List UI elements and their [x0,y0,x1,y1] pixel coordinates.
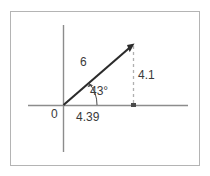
origin-label: 0 [51,107,58,121]
y-component-label: 4.1 [138,68,155,82]
magnitude-label: 6 [80,55,87,69]
vector-diagram-figure: 0 6 43° 4.39 4.1 [0,0,210,176]
x-component-tick-marker [131,103,136,107]
angle-label: 43° [90,84,108,98]
vector-diagram-canvas: 0 6 43° 4.39 4.1 [0,0,210,176]
x-component-label: 4.39 [76,110,100,124]
